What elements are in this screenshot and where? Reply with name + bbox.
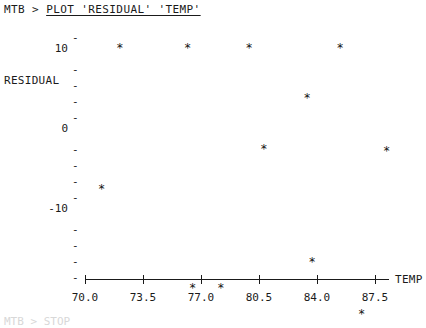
plot-screen: MTB > PLOT 'RESIDUAL' 'TEMP' -----------…	[0, 0, 426, 328]
x-axis-tick	[375, 275, 376, 284]
data-point: *	[184, 42, 192, 50]
x-axis-title: TEMP	[395, 274, 423, 285]
data-point: *	[358, 308, 366, 316]
data-point: *	[189, 282, 197, 290]
y-axis-tick: -	[72, 160, 79, 171]
y-axis-tick: -	[72, 96, 79, 107]
x-axis-tick	[143, 275, 144, 284]
x-axis-line	[85, 279, 389, 280]
data-point: *	[217, 282, 225, 290]
data-point: *	[98, 183, 106, 191]
y-axis-tick: -	[72, 192, 79, 203]
y-axis-tick-label: 0	[6, 123, 68, 134]
x-axis-tick-label: 80.5	[246, 292, 273, 303]
x-axis-tick-label: 73.5	[130, 292, 157, 303]
x-axis-tick-label: 77.0	[188, 292, 215, 303]
y-axis-tick: -	[72, 272, 79, 283]
data-point: *	[383, 145, 391, 153]
x-axis-tick-label: 84.0	[304, 292, 331, 303]
y-axis-tick: -	[72, 32, 79, 43]
y-axis-tick: -	[72, 224, 79, 235]
y-axis-tick: -	[72, 80, 79, 91]
data-point: *	[308, 256, 316, 264]
y-axis-tick: -	[72, 112, 79, 123]
y-axis-tick: -	[72, 256, 79, 267]
x-axis-tick	[259, 275, 260, 284]
scatter-plot: ------------- 100-10 RESIDUAL **********…	[0, 0, 426, 328]
x-axis-tick-label: 70.0	[72, 292, 99, 303]
y-axis-tick: -	[72, 144, 79, 155]
y-axis-tick-label: 10	[6, 43, 68, 54]
y-axis-tick: -	[72, 64, 79, 75]
data-point: *	[116, 42, 124, 50]
footer-partial-text: MTB > STOP	[4, 316, 70, 327]
data-point: *	[260, 143, 268, 151]
data-point: *	[303, 92, 311, 100]
y-axis-tick: -	[72, 176, 79, 187]
data-point: *	[336, 42, 344, 50]
x-axis-tick	[85, 275, 86, 284]
x-axis-tick	[317, 275, 318, 284]
y-axis-tick: -	[72, 240, 79, 251]
x-axis-tick	[201, 275, 202, 284]
y-axis-title: RESIDUAL	[4, 75, 59, 86]
y-axis-tick-label: -10	[6, 203, 68, 214]
x-axis-tick-label: 87.5	[362, 292, 389, 303]
data-point: *	[245, 42, 253, 50]
